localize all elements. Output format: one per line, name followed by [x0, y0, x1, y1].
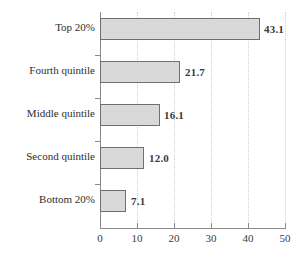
category-label-top-20: Top 20%	[3, 21, 95, 33]
bar-top-20	[100, 18, 260, 40]
bar-value-fourth-quintile: 21.7	[185, 66, 205, 78]
x-tick-label-30: 30	[196, 232, 226, 244]
x-tick-label-50: 50	[270, 232, 300, 244]
bar-fourth-quintile	[100, 61, 180, 83]
category-label-second-quintile: Second quintile	[3, 150, 95, 162]
y-axis-tick-1	[95, 55, 100, 56]
y-axis-tick-3	[95, 141, 100, 142]
bar-chart-figure: Top 20% Fourth quintile Middle quintile …	[0, 0, 301, 254]
bar-value-bottom-20: 7.1	[131, 195, 145, 207]
x-tick-label-10: 10	[122, 232, 152, 244]
x-tick-label-40: 40	[233, 232, 263, 244]
bar-value-second-quintile: 12.0	[149, 152, 169, 164]
bar-bottom-20	[100, 190, 126, 212]
bar-row: 43.1	[100, 18, 286, 40]
x-axis-tick-20	[174, 223, 175, 229]
x-axis-tick-40	[248, 223, 249, 229]
x-axis-line	[100, 228, 286, 229]
bar-value-top-20: 43.1	[264, 23, 284, 35]
x-axis-tick-0	[100, 223, 101, 229]
x-axis-tick-10	[137, 223, 138, 229]
bar-value-middle-quintile: 16.1	[164, 109, 184, 121]
x-tick-label-20: 20	[159, 232, 189, 244]
clipped-caption-artifact	[8, 246, 208, 254]
bar-middle-quintile	[100, 104, 160, 126]
y-axis-tick-2	[95, 98, 100, 99]
x-tick-label-0: 0	[85, 232, 115, 244]
category-label-middle-quintile: Middle quintile	[3, 107, 95, 119]
bar-second-quintile	[100, 147, 144, 169]
y-axis-tick-4	[95, 184, 100, 185]
bar-row: 7.1	[100, 190, 286, 212]
x-axis-tick-30	[211, 223, 212, 229]
bar-row: 16.1	[100, 104, 286, 126]
category-label-bottom-20: Bottom 20%	[3, 193, 95, 205]
x-axis-tick-50	[285, 223, 286, 229]
category-label-fourth-quintile: Fourth quintile	[3, 64, 95, 76]
bar-row: 21.7	[100, 61, 286, 83]
bar-row: 12.0	[100, 147, 286, 169]
